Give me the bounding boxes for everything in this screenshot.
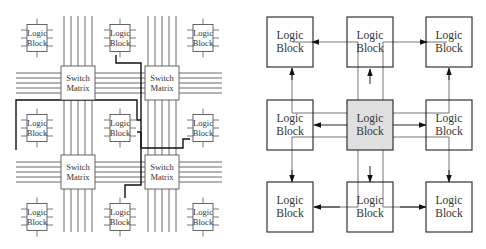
block-label-line: Logic (193, 118, 213, 128)
logic-block-small: LogicBlock (21, 19, 53, 58)
block-label-line: Logic (357, 194, 384, 207)
block-label-line: Switch (150, 73, 174, 83)
figure: SwitchMatrixSwitchMatrixSwitchMatrixSwit… (0, 0, 486, 249)
block-label-line: Logic (357, 29, 384, 42)
block-label-line: Logic (277, 112, 304, 125)
block-label-line: Logic (277, 29, 304, 42)
block-label-line: Logic (436, 29, 463, 42)
block-label-line: Matrix (150, 83, 174, 93)
block-label-line: Block (356, 207, 384, 219)
neighbour-interconnect-diagram: LogicBlockLogicBlockLogicBlockLogicBlock… (267, 17, 472, 232)
switch-matrix: SwitchMatrix (145, 155, 179, 189)
block-label-line: Block (356, 42, 384, 54)
block-label-line: Block (276, 125, 304, 137)
logic-block-small: LogicBlock (21, 198, 53, 237)
block-label-line: Logic (110, 118, 130, 128)
block-label-line: Logic (110, 207, 130, 217)
block-label-line: Block (110, 38, 131, 48)
logic-block-small: LogicBlock (187, 198, 219, 237)
logic-block: LogicBlock (267, 182, 313, 232)
block-label-line: Block (110, 128, 131, 138)
block-label-line: Logic (27, 28, 47, 38)
block-label-line: Block (110, 217, 131, 227)
block-label-line: Block (356, 125, 384, 137)
switch-matrix: SwitchMatrix (145, 66, 179, 100)
logic-block-small: LogicBlock (104, 109, 136, 148)
block-label-line: Logic (436, 112, 463, 125)
island-fpga-diagram: SwitchMatrixSwitchMatrixSwitchMatrixSwit… (16, 16, 222, 237)
block-label-line: Block (193, 38, 214, 48)
block-label-line: Switch (66, 73, 90, 83)
block-label-line: Block (27, 38, 48, 48)
logic-blocks-small: LogicBlockLogicBlockLogicBlockLogicBlock… (21, 19, 219, 237)
logic-block-small: LogicBlock (187, 109, 219, 148)
block-label-line: Block (276, 42, 304, 54)
switch-matrix: SwitchMatrix (61, 66, 95, 100)
logic-block: LogicBlock (426, 182, 472, 232)
block-label-line: Switch (66, 162, 90, 172)
block-label-line: Matrix (66, 83, 90, 93)
logic-block: LogicBlock (267, 100, 313, 150)
block-label-line: Matrix (150, 172, 174, 182)
block-label-line: Logic (27, 118, 47, 128)
logic-block-center: LogicBlock (347, 100, 393, 150)
block-label-line: Block (435, 125, 463, 137)
block-label-line: Block (276, 207, 304, 219)
block-label-line: Block (193, 128, 214, 138)
block-label-line: Block (435, 42, 463, 54)
block-label-line: Logic (27, 207, 47, 217)
logic-block-small: LogicBlock (104, 198, 136, 237)
block-label-line: Logic (110, 28, 130, 38)
block-label-line: Logic (193, 207, 213, 217)
switch-matrix: SwitchMatrix (61, 155, 95, 189)
logic-block-small: LogicBlock (21, 109, 53, 148)
block-label-line: Logic (277, 194, 304, 207)
block-label-line: Block (435, 207, 463, 219)
block-label-line: Block (27, 128, 48, 138)
block-label-line: Block (193, 217, 214, 227)
block-label-line: Logic (357, 112, 384, 125)
logic-block-small: LogicBlock (187, 19, 219, 58)
logic-blocks-large: LogicBlockLogicBlockLogicBlockLogicBlock… (267, 17, 472, 232)
block-label-line: Logic (193, 28, 213, 38)
block-label-line: Block (27, 217, 48, 227)
block-label-line: Logic (436, 194, 463, 207)
block-label-line: Matrix (66, 172, 90, 182)
block-label-line: Switch (150, 162, 174, 172)
logic-block-small: LogicBlock (104, 19, 136, 58)
